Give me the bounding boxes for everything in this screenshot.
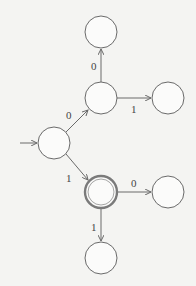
edge-label-n2-n5: 0	[131, 177, 137, 189]
edge-label-n1-n3: 0	[91, 60, 97, 72]
state-n4	[152, 82, 184, 114]
state-n1	[85, 82, 117, 114]
edge-label-start-n2: 1	[66, 172, 72, 184]
edge-label-n2-n6: 1	[91, 221, 97, 233]
edge-label-n1-n4: 1	[131, 103, 137, 115]
state-n5	[152, 176, 184, 208]
edge-label-start-n1: 0	[66, 109, 72, 121]
automaton-diagram: 0 1 0 1 0 1	[0, 0, 196, 286]
state-n2-accepting	[85, 176, 117, 208]
state-n3	[85, 16, 117, 48]
state-start	[38, 127, 70, 159]
state-n6	[85, 242, 117, 274]
